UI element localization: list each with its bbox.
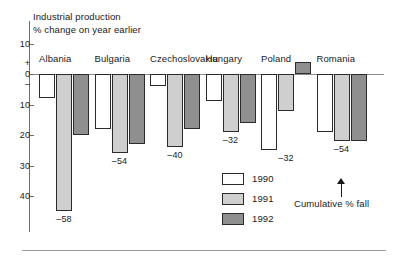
y-axis-tick-label: 0 xyxy=(8,70,30,79)
bar-group: Czechoslovakia–40 xyxy=(150,21,200,232)
legend-swatch-icon xyxy=(222,173,244,185)
cumulative-value-label: –58 xyxy=(35,215,93,224)
bar-romania-1990 xyxy=(317,74,333,132)
bar-czechoslovakia-1990 xyxy=(150,74,166,86)
cumulative-value-label: –54 xyxy=(313,145,371,154)
cumulative-value-label: –32 xyxy=(202,136,260,145)
cumulative-arrow-shaft-icon xyxy=(341,182,342,197)
y-axis-tick-label: 10 xyxy=(8,40,30,49)
footer-divider xyxy=(22,250,386,251)
bar-bulgaria-1992 xyxy=(129,74,145,144)
chart-figure: Industrial production % change on year e… xyxy=(0,0,398,259)
bar-group: Albania–58 xyxy=(39,21,89,232)
bar-poland-1990 xyxy=(261,74,277,150)
y-axis-sign-positive: + xyxy=(8,59,30,68)
category-label: Albania xyxy=(39,54,71,64)
category-label: Romania xyxy=(317,54,356,64)
legend-item-label: 1992 xyxy=(252,213,274,225)
legend-swatch-icon xyxy=(222,213,244,225)
cumulative-value-label: –54 xyxy=(91,157,149,166)
bar-albania-1990 xyxy=(39,74,55,98)
y-axis-tick-label: 20 xyxy=(8,131,30,140)
cumulative-value-label: –40 xyxy=(146,151,204,160)
bar-hungary-1992 xyxy=(240,74,256,123)
bar-romania-1991 xyxy=(334,74,350,141)
category-label: Hungary xyxy=(206,54,243,64)
bar-bulgaria-1990 xyxy=(95,74,111,129)
bar-czechoslovakia-1992 xyxy=(184,74,200,129)
bar-hungary-1991 xyxy=(223,74,239,132)
y-axis-tick-label: 30 xyxy=(8,162,30,171)
y-axis-sign-negative: – xyxy=(8,80,30,89)
bar-poland-1991 xyxy=(278,74,294,111)
category-label: Bulgaria xyxy=(95,54,131,64)
bar-group: Bulgaria–54 xyxy=(95,21,145,232)
bar-romania-1992 xyxy=(351,74,367,141)
bar-bulgaria-1991 xyxy=(112,74,128,153)
legend-item-label: 1990 xyxy=(252,173,274,185)
cumulative-annotation-label: Cumulative % fall xyxy=(294,198,369,209)
cumulative-value-label: –32 xyxy=(257,154,315,163)
bar-albania-1992 xyxy=(73,74,89,135)
bar-poland-1992 xyxy=(295,62,311,74)
y-axis-tick-label: 10 xyxy=(8,101,30,110)
category-label: Poland xyxy=(261,54,291,64)
legend-item-label: 1991 xyxy=(252,193,274,205)
bar-albania-1991 xyxy=(56,74,72,211)
bar-hungary-1990 xyxy=(206,74,222,101)
y-axis-tick-label: 40 xyxy=(8,192,30,201)
legend-swatch-icon xyxy=(222,193,244,205)
bar-czechoslovakia-1991 xyxy=(167,74,183,147)
